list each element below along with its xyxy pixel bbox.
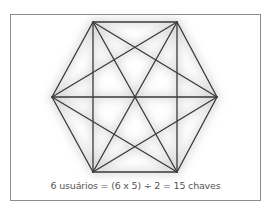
figure-caption: 6 usuários = (6 x 5) ÷ 2 = 15 chaves [10,180,261,191]
